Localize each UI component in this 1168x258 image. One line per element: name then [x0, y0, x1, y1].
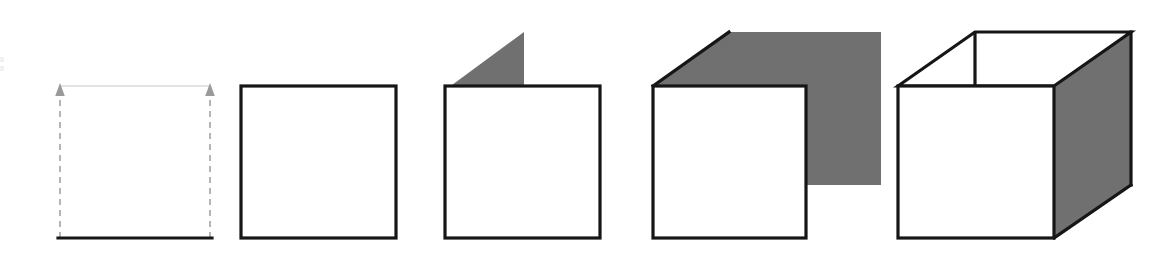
cube-sequence-svg [0, 0, 1168, 258]
front-face [898, 86, 1054, 238]
step-4-square-with-large-flap [653, 32, 881, 238]
left-edge-artifact [0, 57, 4, 71]
square-face [445, 86, 600, 238]
step-3-square-with-small-flap [445, 32, 600, 238]
square-face [241, 86, 396, 238]
gray-triangle-flap [452, 32, 524, 85]
front-face [653, 86, 806, 238]
step-1-baseline-with-extrusion-arrows [55, 83, 215, 238]
diagram-canvas [0, 0, 1168, 258]
step-5-completed-cube [898, 32, 1131, 238]
step-2-closed-square [241, 86, 396, 238]
